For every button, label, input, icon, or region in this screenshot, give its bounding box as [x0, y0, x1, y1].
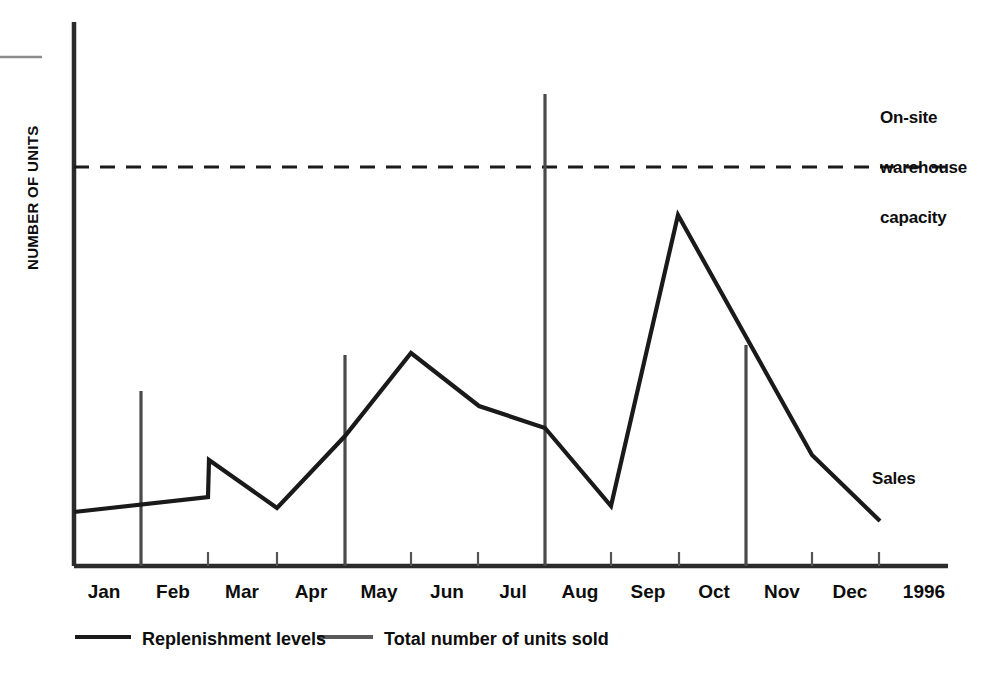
- sales-annotation: Sales: [872, 469, 915, 489]
- replenishment-levels-line: [74, 215, 880, 521]
- chart-container: NUMBER OF UNITS On-site warehouse capaci…: [0, 0, 998, 678]
- x-tick-label-sep: Sep: [631, 581, 666, 603]
- x-tick-label-jul: Jul: [499, 581, 526, 603]
- x-tick-label-apr: Apr: [295, 581, 328, 603]
- x-tick-label-jun: Jun: [430, 581, 464, 603]
- capacity-annotation-line-2: warehouse: [880, 158, 967, 177]
- x-tick-label-may: May: [361, 581, 398, 603]
- x-tick-label-feb: Feb: [156, 581, 190, 603]
- legend-label-replenishment: Replenishment levels: [142, 629, 326, 650]
- x-tick-label-jan: Jan: [88, 581, 121, 603]
- x-tick-label-year: 1996: [903, 581, 945, 603]
- capacity-annotation-line-1: On-site: [880, 108, 937, 127]
- capacity-annotation-line-3: capacity: [880, 208, 946, 227]
- x-tick-label-mar: Mar: [225, 581, 259, 603]
- x-tick-label-dec: Dec: [833, 581, 868, 603]
- x-tick-label-aug: Aug: [562, 581, 599, 603]
- capacity-annotation: On-site warehouse capacity: [862, 80, 992, 255]
- legend-label-units-sold: Total number of units sold: [384, 629, 609, 650]
- chart-plot-area: [0, 0, 998, 678]
- x-tick-label-oct: Oct: [698, 581, 730, 603]
- units-sold-bars: [141, 94, 746, 566]
- x-tick-label-nov: Nov: [764, 581, 800, 603]
- y-axis-title: NUMBER OF UNITS: [22, 248, 44, 270]
